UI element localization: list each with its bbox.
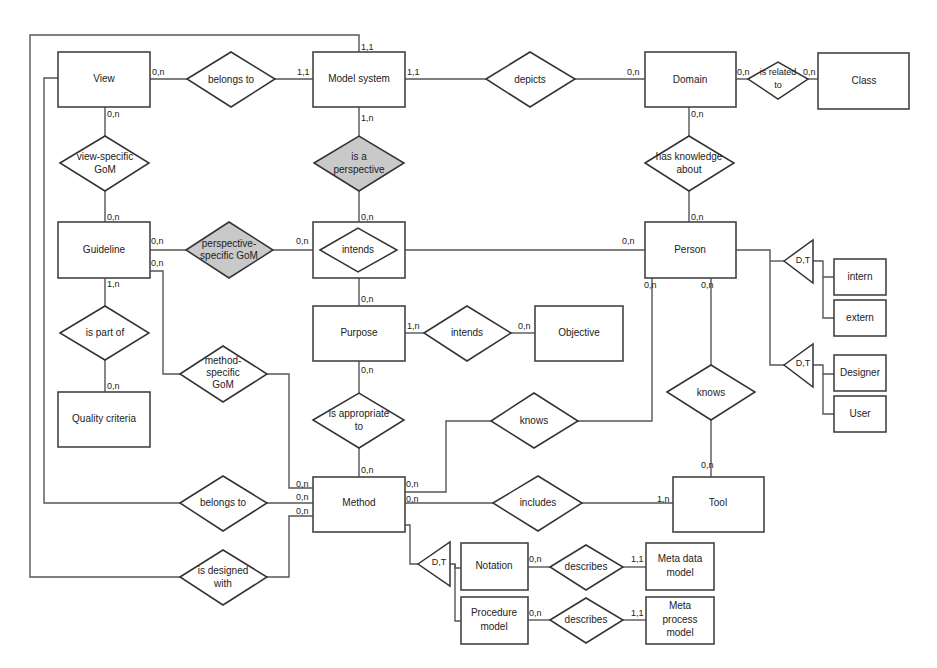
svg-text:0,n: 0,n [151,258,164,268]
entity-intern[interactable]: intern [834,259,886,295]
entity-meta-process-model[interactable]: Meta process model [646,597,714,644]
entity-extern[interactable]: extern [834,300,886,336]
relationship-label: belongs to [200,497,247,508]
relationship-label: has knowledge [656,151,723,162]
entity-label: Designer [840,367,881,378]
svg-text:1,n: 1,n [361,113,374,123]
relationship-method-specific-gom[interactable]: method- specific GoM [180,346,267,402]
relationship-depicts[interactable]: depicts [486,52,575,107]
relationship-is-designed-with[interactable]: is designed with [180,550,267,605]
relationship-label: is appropriate [329,408,390,419]
svg-text:0,n: 0,n [627,67,640,77]
entity-domain[interactable]: Domain [645,52,736,107]
generalization-label: D,T [796,255,811,265]
relationship-label: describes [565,614,608,625]
generalization-person-role[interactable]: D,T [784,344,813,387]
relationship-intends-objective[interactable]: intends [424,306,511,361]
entity-label: View [93,73,115,84]
relationship-knows-method[interactable]: knows [491,393,578,448]
relationship-label: specific GoM [200,250,258,261]
entity-label: Method [342,497,375,508]
entity-procedure-model[interactable]: Procedure model [461,597,528,644]
svg-text:1,1: 1,1 [297,67,310,77]
relationship-label: to [355,421,364,432]
entity-quality-criteria[interactable]: Quality criteria [58,392,150,447]
relationship-label: intends [451,327,483,338]
entity-purpose[interactable]: Purpose [313,306,405,361]
svg-text:0,n: 0,n [296,479,309,489]
svg-text:1,1: 1,1 [407,67,420,77]
svg-text:0,n: 0,n [361,365,374,375]
svg-text:0,n: 0,n [518,321,531,331]
relationship-perspective-specific-gom[interactable]: perspective- specific GoM [186,222,273,278]
svg-text:0,n: 0,n [361,212,374,222]
svg-text:0,n: 0,n [529,554,542,564]
entity-objective[interactable]: Objective [535,306,623,361]
relationship-label: is designed [198,565,249,576]
svg-text:0,n: 0,n [406,479,419,489]
relationship-label: view-specific [77,151,134,162]
svg-text:0,n: 0,n [296,236,309,246]
entity-label: model [480,621,507,632]
relationship-is-part-of[interactable]: is part of [60,306,149,360]
relationship-label: specific [206,367,239,378]
entity-view[interactable]: View [58,52,150,107]
relationship-label: belongs to [208,74,255,85]
relationship-method-belongs-to[interactable]: belongs to [180,476,267,531]
relationship-label: perspective- [202,238,256,249]
entity-designer[interactable]: Designer [834,355,886,391]
entity-person[interactable]: Person [645,222,736,278]
entity-class[interactable]: Class [818,53,909,109]
entity-label: extern [846,312,874,323]
entity-label: Tool [709,497,727,508]
generalization-method-parts[interactable]: D,T [418,542,450,586]
relationship-includes[interactable]: includes [493,476,582,531]
relationship-view-specific-gom[interactable]: view-specific GoM [60,136,149,191]
entity-method[interactable]: Method [313,477,405,532]
svg-text:0,n: 0,n [691,212,704,222]
relationship-is-appropriate-to[interactable]: is appropriate to [313,393,404,448]
svg-text:0,n: 0,n [701,280,714,290]
entity-label: Domain [673,74,707,85]
relationship-label: is part of [86,327,125,338]
svg-text:0,n: 0,n [691,109,704,119]
relationship-label: knows [520,415,548,426]
relationship-label: method- [205,355,242,366]
relationship-knows-person-tool[interactable]: knows [667,365,755,420]
entity-guideline[interactable]: Guideline [58,222,150,278]
svg-text:1,1: 1,1 [361,42,374,52]
entity-user[interactable]: User [834,396,886,432]
svg-text:1,1: 1,1 [631,554,644,564]
relationship-describes-procedure[interactable]: describes [550,598,623,643]
relationship-label: with [213,578,232,589]
relationship-describes-notation[interactable]: describes [550,545,623,590]
svg-text:0,n: 0,n [152,67,165,77]
relationship-label: depicts [514,74,546,85]
svg-text:0,n: 0,n [737,67,750,77]
entity-label: Purpose [340,327,378,338]
relationship-label: about [676,164,701,175]
entity-label: Objective [558,327,600,338]
relationship-is-related-to[interactable]: is related to [748,62,808,99]
entity-model-system[interactable]: Model system [313,52,405,107]
svg-text:0,n: 0,n [701,460,714,470]
svg-text:0,n: 0,n [406,494,419,504]
entity-label: Procedure [471,607,518,618]
relationship-has-knowledge-about[interactable]: has knowledge about [645,136,734,191]
svg-text:1,n: 1,n [407,321,420,331]
svg-text:0,n: 0,n [296,506,309,516]
svg-text:0,n: 0,n [644,280,657,290]
entity-label: model [666,627,693,638]
entity-notation[interactable]: Notation [461,543,528,590]
svg-text:0,n: 0,n [296,492,309,502]
svg-text:0,n: 0,n [107,212,120,222]
svg-text:1,1: 1,1 [631,608,644,618]
entity-label: process [662,614,697,625]
entity-tool[interactable]: Tool [673,477,764,532]
entity-meta-data-model[interactable]: Meta data model [646,543,714,590]
entity-label: Guideline [83,244,126,255]
generalization-person-internal[interactable]: D,T [784,240,813,283]
relationship-view-belongs-to[interactable]: belongs to [187,52,275,107]
relationship-label: includes [520,497,557,508]
relationship-is-a-perspective[interactable]: is a perspective [314,136,404,191]
